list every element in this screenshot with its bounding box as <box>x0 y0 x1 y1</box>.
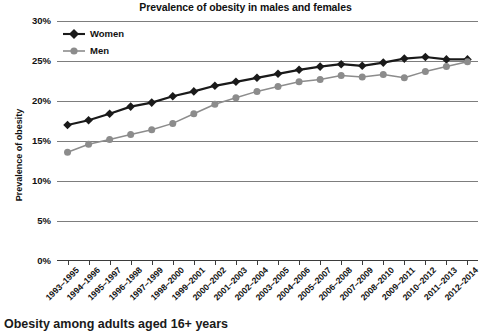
data-point-women <box>168 92 177 101</box>
data-point-men <box>401 74 408 81</box>
data-point-women <box>147 98 156 107</box>
chart-title: Prevalence of obesity in males and femal… <box>0 1 491 13</box>
data-point-men <box>464 58 471 65</box>
data-point-women <box>316 62 325 71</box>
data-point-men <box>422 68 429 75</box>
data-point-men <box>380 71 387 78</box>
legend-label-men: Men <box>90 45 109 56</box>
y-axis-title: Prevalence of obesity <box>14 80 24 230</box>
data-point-men <box>106 136 113 143</box>
data-point-women <box>400 54 409 63</box>
y-tick-label: 25% <box>5 55 51 66</box>
chart-caption: Obesity among adults aged 16+ years <box>4 317 228 331</box>
legend: Women Men <box>62 25 124 59</box>
data-point-women <box>379 58 388 67</box>
data-point-women <box>253 74 262 83</box>
data-point-women <box>126 102 135 111</box>
data-point-men <box>253 88 260 95</box>
data-point-women <box>442 55 451 64</box>
legend-marker-diamond-icon <box>62 28 86 40</box>
data-point-women <box>63 121 72 130</box>
legend-item-men: Men <box>62 42 124 59</box>
series-line-women <box>68 57 468 125</box>
y-tick-label: 10% <box>5 175 51 186</box>
data-point-women <box>274 70 283 79</box>
data-point-women <box>421 53 430 62</box>
data-point-men <box>127 131 134 138</box>
data-point-men <box>443 63 450 70</box>
data-point-men <box>296 78 303 85</box>
data-point-men <box>275 83 282 90</box>
data-point-women <box>337 60 346 69</box>
legend-label-women: Women <box>90 28 124 39</box>
data-point-men <box>359 74 366 81</box>
data-point-women <box>232 78 241 87</box>
data-point-men <box>232 94 239 101</box>
data-point-men <box>64 149 71 156</box>
y-tick-label: 0% <box>5 255 51 266</box>
legend-marker-circle-icon <box>62 45 86 57</box>
chart-container: Prevalence of obesity in males and femal… <box>0 0 491 336</box>
legend-item-women: Women <box>62 25 124 42</box>
data-point-men <box>85 141 92 148</box>
data-point-men <box>148 126 155 133</box>
data-point-women <box>84 116 93 125</box>
data-point-women <box>105 110 114 119</box>
data-point-women <box>190 87 199 96</box>
data-point-women <box>211 82 220 91</box>
y-tick-label: 30% <box>5 15 51 26</box>
y-tick-label: 15% <box>5 135 51 146</box>
y-tick-label: 5% <box>5 215 51 226</box>
y-tick-label: 20% <box>5 95 51 106</box>
data-point-men <box>211 101 218 108</box>
data-point-women <box>358 62 367 71</box>
data-point-men <box>190 110 197 117</box>
data-point-men <box>169 120 176 127</box>
data-point-women <box>295 66 304 75</box>
data-point-men <box>338 72 345 79</box>
data-point-men <box>317 76 324 83</box>
